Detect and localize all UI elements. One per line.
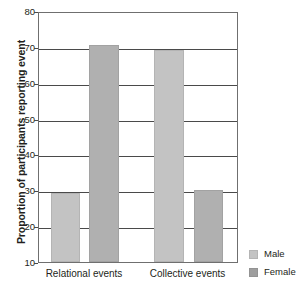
gridline-40 <box>39 156 237 157</box>
legend-item-male: Male <box>249 245 305 263</box>
plot-area <box>38 12 238 263</box>
y-tick-mark-10 <box>34 263 38 264</box>
legend-item-female: Female <box>249 263 305 281</box>
plot-inner <box>39 13 237 262</box>
y-tick-label-40: 40 <box>13 150 35 160</box>
bar-relational-female <box>89 45 119 262</box>
y-tick-label-10: 10 <box>13 258 35 268</box>
y-tick-label-70: 70 <box>13 43 35 53</box>
bar-collective-male <box>154 50 184 262</box>
bar-collective-female <box>194 190 223 262</box>
y-tick-label-80: 80 <box>13 7 35 17</box>
legend-swatch-male-icon <box>249 250 258 259</box>
x-axis-label-relational-events: Relational events <box>24 268 144 280</box>
y-tick-label-30: 30 <box>13 186 35 196</box>
gridline-50 <box>39 121 237 122</box>
legend-swatch-female-icon <box>249 268 258 277</box>
gridline-60 <box>39 85 237 86</box>
legend-label-female: Female <box>264 267 296 277</box>
y-tick-label-50: 50 <box>13 115 35 125</box>
y-tick-label-20: 20 <box>13 222 35 232</box>
legend: Male Female <box>249 245 305 281</box>
x-axis-label-collective-events: Collective events <box>128 268 248 280</box>
bar-chart-figure: Proportion of participants reporting eve… <box>0 0 305 300</box>
y-tick-label-60: 60 <box>13 79 35 89</box>
gridline-70 <box>39 49 237 50</box>
legend-label-male: Male <box>264 249 285 259</box>
bar-relational-male <box>51 193 80 262</box>
